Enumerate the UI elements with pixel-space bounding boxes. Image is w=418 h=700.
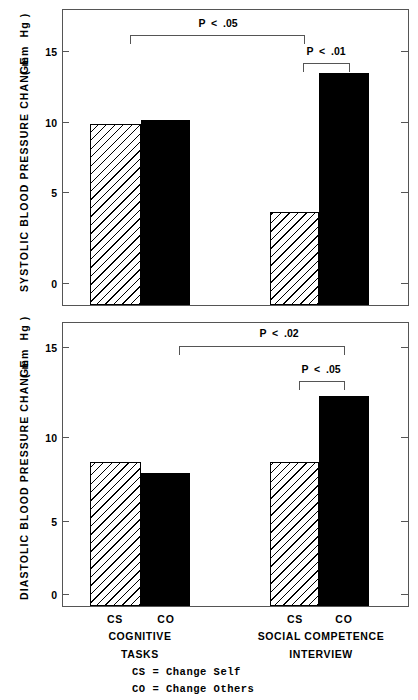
diastolic-ytick-label-5: 5 <box>36 516 57 528</box>
bracket-right-leg <box>344 381 345 390</box>
diastolic-ytick-label-15: 15 <box>36 342 57 354</box>
diastolic-ytick-5 <box>62 521 69 522</box>
diastolic-ytick-right-0 <box>401 594 408 595</box>
group-label-sci-line1: SOCIAL COMPETENCE <box>248 630 394 642</box>
group-label-sci-line2: INTERVIEW <box>248 648 394 660</box>
diastolic-pvalue-narrow-label: P < .05 <box>258 363 384 375</box>
diastolic-ytick-0 <box>62 594 69 595</box>
bracket-right-leg <box>344 346 345 355</box>
diastolic-bar-sci-co <box>319 396 369 606</box>
legend-line-co: CO = Change Others <box>132 683 254 695</box>
diastolic-ytick-label-10: 10 <box>36 432 57 444</box>
diastolic-ytick-label-0: 0 <box>36 589 57 601</box>
diastolic-bracket-narrow <box>299 381 345 390</box>
diastolic-axis-unit: ( mm Hg ) <box>18 316 30 378</box>
xtick-label-cognitive-cs: CS <box>95 613 135 625</box>
diastolic-ytick-right-15 <box>401 347 408 348</box>
xtick-label-sci-co: CO <box>324 613 364 625</box>
diastolic-ytick-10 <box>62 437 69 438</box>
legend-line-cs: CS = Change Self <box>132 666 241 678</box>
xtick-label-sci-cs: CS <box>275 613 315 625</box>
diastolic-ytick-right-5 <box>401 521 408 522</box>
diastolic-bar-cognitive-co <box>141 473 190 606</box>
diastolic-ytick-right-10 <box>401 437 408 438</box>
xtick-label-cognitive-co: CO <box>146 613 186 625</box>
diastolic-bar-cognitive-cs <box>90 462 141 606</box>
bracket-left-leg <box>299 381 300 390</box>
group-label-cognitive-line1: COGNITIVE <box>80 630 200 642</box>
diastolic-axis-title: DIASTOLIC BLOOD PRESSURE CHANGE <box>18 360 30 600</box>
bracket-left-leg <box>179 346 180 355</box>
diastolic-pvalue-wide-label: P < .02 <box>216 327 342 339</box>
bracket-hline <box>299 381 345 382</box>
diastolic-ytick-15 <box>62 347 69 348</box>
diastolic-bar-sci-cs <box>270 462 319 606</box>
bracket-hline <box>179 346 345 347</box>
panel-diastolic: DIASTOLIC BLOOD PRESSURE CHANGE ( mm Hg … <box>0 0 418 700</box>
group-label-cognitive-line2: TASKS <box>80 648 200 660</box>
diastolic-bracket-wide <box>179 346 345 355</box>
figure-blood-pressure-change: SYSTOLIC BLOOD PRESSURE CHANGE ( mm Hg )… <box>0 0 418 700</box>
